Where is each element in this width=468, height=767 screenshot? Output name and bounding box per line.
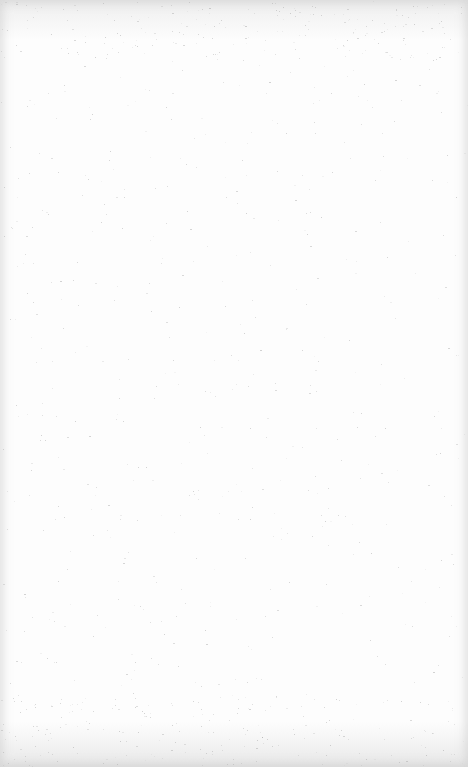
top-edge-shading — [0, 0, 468, 40]
bottom-edge-shading — [0, 722, 468, 767]
paper-grain-noise — [0, 0, 468, 767]
blank-document-page — [0, 0, 468, 767]
page-vignette — [0, 0, 468, 767]
